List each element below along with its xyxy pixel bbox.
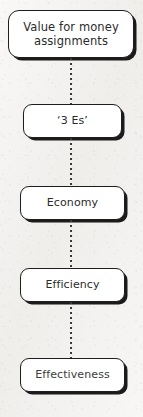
node-label: Efficiency xyxy=(41,278,103,291)
node-label: Effectiveness xyxy=(31,368,114,381)
node-economy[interactable]: Economy xyxy=(20,186,125,220)
node-label: Economy xyxy=(43,196,102,209)
node-3-es[interactable]: ‘3 Es’ xyxy=(23,104,122,138)
node-label-line-1: Value for money xyxy=(23,20,119,34)
node-label-line-2: assignments xyxy=(34,34,108,48)
connector-economy-to-efficiency xyxy=(70,220,72,268)
connector-3es-to-economy xyxy=(70,138,72,186)
node-value-for-money-assignments[interactable]: Value for moneyassignments xyxy=(8,10,134,58)
node-efficiency[interactable]: Efficiency xyxy=(20,268,125,302)
node-label: ‘3 Es’ xyxy=(53,114,92,127)
diagram-canvas: Value for moneyassignments ‘3 Es’ Econom… xyxy=(0,0,143,417)
node-effectiveness[interactable]: Effectiveness xyxy=(20,358,125,392)
node-label: Value for moneyassignments xyxy=(19,20,123,48)
connector-root-to-3es xyxy=(70,58,72,104)
connector-efficiency-to-effectiveness xyxy=(70,302,72,358)
